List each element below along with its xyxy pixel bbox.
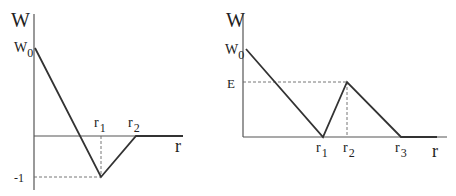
left-w0-label: W0 xyxy=(14,40,33,60)
right-diagram: W W0 E r1 r2 r3 r xyxy=(225,9,447,161)
right-y-axis-label: W xyxy=(226,9,245,31)
right-r1-label: r1 xyxy=(316,140,328,160)
figure-svg: W W0 -1 r1 r2 r W W0 E r1 r2 r3 r xyxy=(0,0,456,196)
left-curve xyxy=(35,48,183,177)
right-E-label: E xyxy=(227,76,235,91)
left-x-axis-label: r xyxy=(175,136,181,156)
right-x-axis-label: r xyxy=(432,141,438,161)
left-diagram: W W0 -1 r1 r2 r xyxy=(11,9,183,190)
right-r2-label: r2 xyxy=(343,140,355,160)
right-w0-label: W0 xyxy=(225,42,244,62)
left-r1-label: r1 xyxy=(94,115,106,135)
right-r3-label: r3 xyxy=(395,140,407,160)
left-y-axis-label: W xyxy=(11,9,30,31)
right-curve xyxy=(246,49,437,137)
figure-canvas: W W0 -1 r1 r2 r W W0 E r1 r2 r3 r xyxy=(0,0,456,196)
left-minus-one-label: -1 xyxy=(14,171,24,185)
left-r2-label: r2 xyxy=(128,115,140,135)
